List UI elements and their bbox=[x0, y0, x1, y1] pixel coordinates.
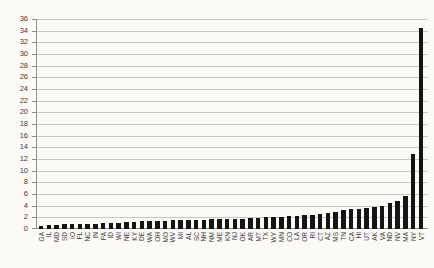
y-axis-tick-label: 14 bbox=[20, 144, 28, 152]
y-axis-tick-labels: 024681012141618202224262830323436 bbox=[0, 19, 30, 229]
bar-TN bbox=[341, 210, 346, 229]
y-axis-tick-label: 16 bbox=[20, 132, 28, 140]
bar-MN bbox=[279, 217, 284, 229]
gridline bbox=[36, 101, 428, 102]
gridline bbox=[36, 124, 428, 125]
bar-WV bbox=[171, 220, 176, 229]
bar-WA bbox=[147, 221, 152, 229]
gridline bbox=[36, 171, 428, 172]
x-axis-tick-label: RI bbox=[309, 232, 316, 239]
x-axis-tick-label: VT bbox=[418, 232, 425, 240]
x-axis-tick-label: KN bbox=[224, 232, 231, 241]
bar-TX bbox=[264, 217, 269, 229]
x-axis-tick-label: MD bbox=[53, 232, 60, 242]
bar-VT bbox=[419, 28, 424, 229]
x-axis-tick-label: WA bbox=[146, 232, 153, 242]
gridline bbox=[36, 54, 428, 55]
bar-MD bbox=[54, 225, 59, 229]
x-axis-tick-label: AZ bbox=[324, 232, 331, 240]
x-axis-tick-label: OK bbox=[239, 232, 246, 241]
bar-KN bbox=[225, 219, 230, 229]
x-axis-tick-label: NV bbox=[394, 232, 401, 241]
x-axis-tick-label: NY bbox=[410, 232, 417, 241]
bar-AR bbox=[248, 218, 253, 229]
y-axis-tick-label: 2 bbox=[24, 214, 28, 222]
gridline bbox=[36, 31, 428, 32]
x-axis-tick-label: MO bbox=[162, 232, 169, 242]
gridline bbox=[36, 206, 428, 207]
bar-NE bbox=[124, 222, 129, 229]
bar-IN bbox=[93, 224, 98, 229]
x-axis-tick-label: FL bbox=[76, 232, 83, 240]
x-axis-tick-label: MT bbox=[255, 232, 262, 241]
x-axis-tick-label: VA bbox=[379, 232, 386, 240]
bar-DE bbox=[140, 221, 145, 229]
bar-IL bbox=[47, 225, 52, 229]
bar-MI bbox=[178, 220, 183, 229]
gridline bbox=[36, 159, 428, 160]
x-axis-tick-label: IN bbox=[92, 232, 99, 239]
bar-WY bbox=[271, 217, 276, 229]
bar-WI bbox=[116, 223, 121, 229]
gridline bbox=[36, 19, 428, 20]
gridline bbox=[36, 136, 428, 137]
x-axis-tick-label: WI bbox=[115, 232, 122, 240]
gridline bbox=[36, 182, 428, 183]
bar-FL bbox=[78, 224, 83, 229]
x-axis-tick-label: WV bbox=[169, 232, 176, 242]
bar-SC bbox=[194, 220, 199, 229]
x-axis-tick-label: GA bbox=[38, 232, 45, 241]
x-axis-tick-label: CO bbox=[286, 232, 293, 242]
x-axis-tick-label: AK bbox=[371, 232, 378, 241]
bar-OK bbox=[240, 219, 245, 230]
bar-AL bbox=[186, 220, 191, 229]
x-axis-tick-label: NM bbox=[208, 232, 215, 242]
bar-NC bbox=[85, 224, 90, 229]
x-axis-tick-label: MI bbox=[177, 232, 184, 239]
bar-LA bbox=[295, 216, 300, 229]
x-axis-tick-label: NE bbox=[123, 232, 130, 241]
gridline bbox=[36, 66, 428, 67]
bar-ID bbox=[109, 223, 114, 229]
y-axis-tick-label: 0 bbox=[24, 225, 28, 233]
y-axis-tick-label: 22 bbox=[20, 97, 28, 105]
x-axis-tick-label: MN bbox=[278, 232, 285, 242]
bar-ND bbox=[388, 203, 393, 229]
x-axis-tick-label: WY bbox=[270, 232, 277, 242]
x-axis-tick-label: ID bbox=[107, 232, 114, 239]
gridline bbox=[36, 112, 428, 113]
x-axis-tick-label: OR bbox=[301, 232, 308, 242]
bar-OH bbox=[155, 221, 160, 229]
x-axis-tick-label: ME bbox=[216, 232, 223, 242]
x-axis-tick-label: PA bbox=[100, 232, 107, 240]
x-axis-tick-label: SD bbox=[61, 232, 68, 241]
bar-NY bbox=[411, 154, 416, 229]
y-axis-tick-label: 30 bbox=[20, 50, 28, 58]
bar-NJ bbox=[233, 219, 238, 230]
y-axis-tick-label: 8 bbox=[24, 179, 28, 187]
gridline bbox=[36, 147, 428, 148]
x-axis-tick-label: CA bbox=[348, 232, 355, 241]
bar-SD bbox=[62, 224, 67, 229]
x-axis-tick-label: NJ bbox=[231, 232, 238, 240]
x-axis-tick-label: SC bbox=[193, 232, 200, 241]
bar-UT bbox=[364, 208, 369, 229]
bar-chart: 024681012141618202224262830323436 GAILMD… bbox=[0, 0, 434, 268]
bar-NH bbox=[202, 220, 207, 229]
x-axis-tick-label: AR bbox=[247, 232, 254, 241]
bar-NV bbox=[395, 201, 400, 229]
bar-PA bbox=[101, 223, 106, 229]
y-axis-tick-label: 26 bbox=[20, 74, 28, 82]
y-axis-tick-label: 32 bbox=[20, 39, 28, 47]
bar-RI bbox=[310, 215, 315, 229]
x-axis-tick-label: NC bbox=[84, 232, 91, 241]
x-axis-tick-labels: GAILMDSDIOFLNCINPAIDWINEKYDEWAOHMOWVMIAL… bbox=[36, 232, 428, 262]
bar-IO bbox=[70, 224, 75, 229]
bar-NM bbox=[209, 219, 214, 229]
x-axis-tick-label: CT bbox=[317, 232, 324, 241]
bar-MT bbox=[256, 218, 261, 229]
y-axis-tick-label: 6 bbox=[24, 190, 28, 198]
bar-KY bbox=[132, 222, 137, 229]
x-axis-tick-label: UT bbox=[363, 232, 370, 241]
bar-GA bbox=[39, 226, 44, 229]
